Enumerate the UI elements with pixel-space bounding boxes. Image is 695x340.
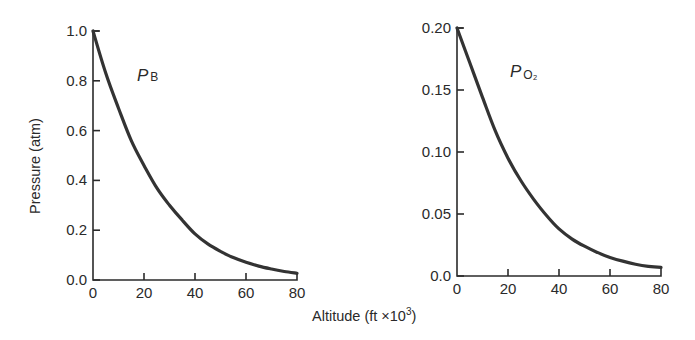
series-label-pb: PB bbox=[137, 66, 158, 85]
series-label-po2: PO₂ bbox=[510, 62, 538, 82]
chart-panel-oxygen-partial-pressure: 0.00.050.100.150.20 020406080 PO₂ bbox=[422, 19, 670, 297]
x-axis-ticks: 020406080 bbox=[89, 273, 306, 301]
y-tick-label: 0.0 bbox=[66, 271, 87, 288]
x-axis-ticks: 020406080 bbox=[453, 269, 670, 297]
axes-frame bbox=[93, 31, 297, 280]
x-tick-label: 20 bbox=[136, 284, 153, 301]
x-tick-label: 60 bbox=[238, 284, 255, 301]
x-tick-label: 40 bbox=[551, 280, 568, 297]
y-tick-label: 0.0 bbox=[430, 267, 451, 284]
y-axis-ticks: 0.00.20.40.60.81.0 bbox=[66, 22, 100, 288]
x-tick-label: 80 bbox=[653, 280, 670, 297]
y-tick-label: 0.10 bbox=[422, 143, 451, 160]
y-tick-label: 0.8 bbox=[66, 72, 87, 89]
x-tick-label: 40 bbox=[187, 284, 204, 301]
y-tick-label: 0.05 bbox=[422, 205, 451, 222]
x-tick-label: 60 bbox=[602, 280, 619, 297]
x-tick-label: 0 bbox=[453, 280, 461, 297]
pressure-curve-pb bbox=[93, 31, 297, 273]
y-tick-label: 0.4 bbox=[66, 171, 87, 188]
figure: Pressure (atm) 0.00.20.40.60.81.0 020406… bbox=[0, 0, 695, 340]
x-tick-label: 80 bbox=[289, 284, 306, 301]
y-tick-label: 0.20 bbox=[422, 19, 451, 36]
x-axis-title: Altitude (ft ×103) bbox=[312, 306, 416, 324]
x-tick-label: 0 bbox=[89, 284, 97, 301]
axes-frame bbox=[457, 28, 661, 276]
y-tick-label: 0.15 bbox=[422, 81, 451, 98]
x-tick-label: 20 bbox=[500, 280, 517, 297]
chart-panel-barometric-pressure: 0.00.20.40.60.81.0 020406080 PB bbox=[66, 22, 305, 301]
y-tick-label: 1.0 bbox=[66, 22, 87, 39]
pressure-curve-po2 bbox=[457, 28, 661, 267]
y-tick-label: 0.6 bbox=[66, 122, 87, 139]
y-axis-title: Pressure (atm) bbox=[27, 118, 43, 214]
y-tick-label: 0.2 bbox=[66, 221, 87, 238]
